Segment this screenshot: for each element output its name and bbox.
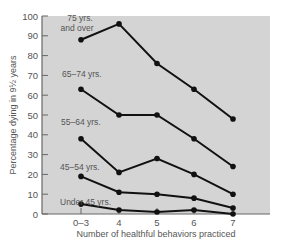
data-point [154,209,160,215]
series-label: and over [60,23,93,33]
x-tick-label: 6 [191,217,196,228]
data-point [230,116,236,122]
y-tick-label: 10 [27,189,38,200]
data-point [230,211,236,217]
data-point [154,191,160,197]
data-point [78,136,84,142]
data-point [154,112,160,118]
data-point [116,189,122,195]
data-point [191,86,197,92]
line-chart: 0102030405060708090100 0–34567 75 yrs.an… [0,0,281,244]
data-point [154,61,160,67]
data-point [116,207,122,213]
x-tick-label: 0–3 [73,217,89,228]
y-tick-label: 20 [27,169,38,180]
data-point [191,172,197,178]
y-tick-label: 50 [27,110,38,121]
data-point [116,170,122,176]
x-axis-label: Number of healthful behaviors practiced [76,229,235,239]
x-tick-label: 7 [230,217,235,228]
y-tick-label: 60 [27,90,38,101]
data-point [78,86,84,92]
data-point [230,164,236,170]
x-tick-label: 4 [116,217,121,228]
series-label: 75 yrs. [67,13,93,23]
y-tick-label: 40 [27,129,38,140]
series-label: Under 45 yrs. [60,197,111,207]
y-tick-label: 90 [27,30,38,41]
data-point [154,156,160,162]
y-axis-label: Percentage dying in 9½ years [8,55,18,175]
data-point [116,112,122,118]
y-tick-label: 70 [27,70,38,81]
y-tick-label: 80 [27,50,38,61]
data-point [191,136,197,142]
series-label: 55–64 yrs. [61,117,101,127]
x-tick-label: 5 [154,217,159,228]
data-point [230,191,236,197]
data-point [78,174,84,180]
series-label: 45–54 yrs. [60,162,100,172]
data-point [191,207,197,213]
y-tick-label: 0 [33,209,38,220]
data-point [116,21,122,27]
data-point [230,205,236,211]
y-tick-label: 100 [22,11,38,22]
data-point [78,37,84,43]
y-tick-label: 30 [27,149,38,160]
series-label: 65–74 yrs. [62,69,102,79]
data-point [191,195,197,201]
